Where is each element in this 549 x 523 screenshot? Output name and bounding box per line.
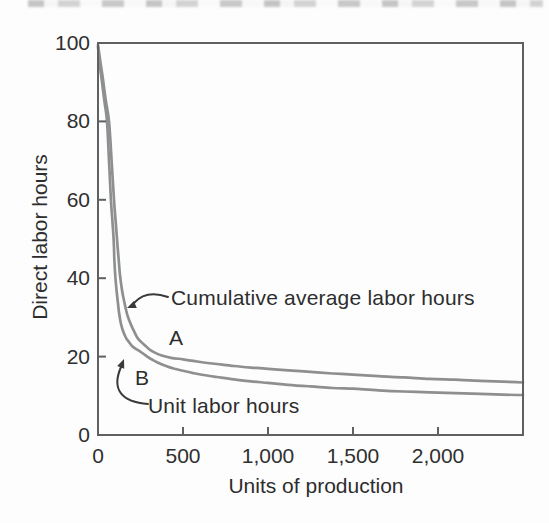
y-tick-label: 0 bbox=[78, 423, 90, 446]
y-tick-label: 100 bbox=[55, 31, 90, 54]
plot-area: 1008060402002,0001,5001,0005000 bbox=[0, 0, 549, 523]
x-tick-label: 0 bbox=[92, 444, 104, 467]
annotation-unit-labor-label: Unit labor hours bbox=[148, 395, 299, 417]
annotation-cumulative-average-label: Cumulative average labor hours bbox=[171, 287, 475, 309]
y-tick-label: 60 bbox=[67, 188, 90, 211]
y-tick-label: 20 bbox=[67, 345, 90, 368]
curve-b-letter: B bbox=[135, 367, 149, 389]
curve-unit-labor bbox=[98, 47, 523, 395]
y-tick-label: 40 bbox=[67, 266, 90, 289]
y-tick-label: 80 bbox=[67, 109, 90, 132]
plot-frame bbox=[98, 43, 523, 435]
x-axis-title: Units of production bbox=[228, 474, 403, 498]
curve-a-letter: A bbox=[169, 327, 183, 349]
learning-curve-figure: 1008060402002,0001,5001,0005000 Cumulati… bbox=[0, 0, 549, 523]
x-tick-label: 1,000 bbox=[242, 444, 295, 467]
arrowhead-b bbox=[117, 359, 124, 369]
arrow-to-curve-a bbox=[127, 294, 168, 308]
x-tick-label: 500 bbox=[165, 444, 200, 467]
x-tick-label: 2,000 bbox=[412, 444, 465, 467]
curve-cumulative-average bbox=[98, 45, 523, 383]
x-tick-label: 1,500 bbox=[327, 444, 380, 467]
y-axis-title: Direct labor hours bbox=[28, 154, 52, 320]
